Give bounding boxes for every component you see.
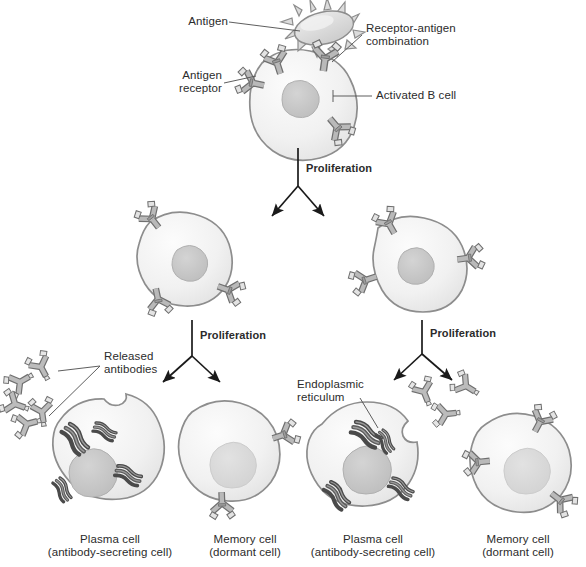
branch-arm-right-top xyxy=(298,186,324,216)
daughter-b-cell-left-group xyxy=(132,198,248,317)
label-antigen-receptor-line1: Antigen xyxy=(144,69,222,83)
label-antigen: Antigen xyxy=(148,15,228,29)
label-antigen-receptor-line2: receptor xyxy=(144,82,222,96)
daughter-b-cell-right-nucleus xyxy=(398,248,434,285)
daughter-b-cell-right-group xyxy=(347,204,486,312)
branch-arm-right-left xyxy=(394,354,422,380)
activated-b-cell-group xyxy=(234,0,365,160)
label-proliferation-left: Proliferation xyxy=(200,329,266,343)
label-receptor-antigen-line1: Receptor-antigen xyxy=(366,22,456,36)
label-released-antibodies-line2: antibodies xyxy=(104,363,157,377)
daughter-b-cell-left-nucleus xyxy=(172,246,208,282)
caption-plasma-cell-left-line2: (antibody-secreting cell) xyxy=(20,546,200,560)
plasma-cell-left-nucleus xyxy=(69,449,117,497)
antigen-group xyxy=(281,0,365,57)
released-antibody-right-2 xyxy=(447,368,484,404)
memory-cell-right-group xyxy=(462,402,581,520)
caption-plasma-cell-right-line2: (antibody-secreting cell) xyxy=(280,546,466,560)
label-activated-b-cell: Activated B cell xyxy=(376,89,456,103)
branch-arm-left-top xyxy=(272,186,298,216)
branch-arm-left-left xyxy=(163,356,192,382)
label-receptor-antigen-line2: combination xyxy=(366,35,429,49)
memory-cell-left-nucleus xyxy=(210,442,256,488)
label-proliferation-right: Proliferation xyxy=(430,327,496,341)
label-released-antibodies-line1: Released xyxy=(104,350,153,364)
label-endoplasmic-reticulum-line2: reticulum xyxy=(297,391,345,405)
leader-released-antibodies-a xyxy=(58,366,100,371)
caption-plasma-cell-right-line1: Plasma cell xyxy=(280,533,466,547)
branch-arm-left-right xyxy=(192,356,220,382)
activated-b-cell-nucleus xyxy=(282,80,319,117)
diagram-canvas xyxy=(0,0,586,567)
label-proliferation-top: Proliferation xyxy=(306,162,372,176)
caption-memory-cell-right-line2: (dormant cell) xyxy=(456,546,580,560)
label-endoplasmic-reticulum-line1: Endoplasmic xyxy=(297,378,364,392)
released-antibody-right-3 xyxy=(430,400,461,427)
caption-plasma-cell-left-line1: Plasma cell xyxy=(20,533,200,547)
memory-cell-right-nucleus xyxy=(504,448,550,494)
memory-cell-left-group xyxy=(179,401,303,520)
caption-memory-cell-right-line1: Memory cell xyxy=(456,533,580,547)
b-cell-activation-diagram: Antigen Receptor-antigen combination Ant… xyxy=(0,0,586,567)
